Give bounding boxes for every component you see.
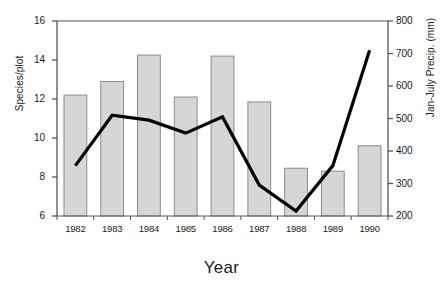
y-axis-right-tick-700: 700 bbox=[396, 49, 426, 59]
bar bbox=[174, 97, 197, 216]
y-axis-right-tick-300: 300 bbox=[396, 179, 426, 189]
y-axis-right-tick-200: 200 bbox=[396, 211, 426, 221]
y-axis-right-tick-800: 800 bbox=[396, 16, 426, 26]
x-axis-tick-1989: 1989 bbox=[313, 224, 353, 234]
x-axis-tick-1982: 1982 bbox=[55, 224, 95, 234]
y-axis-left-tick-6: 6 bbox=[19, 211, 45, 221]
y-axis-right-tick-500: 500 bbox=[396, 114, 426, 124]
chart-figure: Species/plot Jan-July Precip. (mm) Year … bbox=[0, 0, 443, 286]
bar bbox=[358, 146, 381, 216]
y-axis-right-title: Jan-July Precip. (mm) bbox=[425, 0, 436, 138]
y-axis-left-tick-12: 12 bbox=[19, 94, 45, 104]
bar bbox=[101, 81, 124, 216]
y-axis-left-tick-8: 8 bbox=[19, 172, 45, 182]
y-axis-left-tick-10: 10 bbox=[19, 133, 45, 143]
x-axis-tick-1990: 1990 bbox=[350, 224, 390, 234]
x-axis-tick-1987: 1987 bbox=[239, 224, 279, 234]
bar bbox=[138, 55, 161, 216]
y-axis-left-tick-16: 16 bbox=[19, 16, 45, 26]
x-axis-title: Year bbox=[0, 258, 443, 278]
bar bbox=[211, 56, 234, 216]
chart-plot-area bbox=[0, 0, 443, 286]
x-axis-tick-1983: 1983 bbox=[92, 224, 132, 234]
x-axis-tick-1984: 1984 bbox=[129, 224, 169, 234]
bar bbox=[248, 102, 271, 216]
y-axis-left-title: Species/plot bbox=[14, 29, 25, 139]
y-axis-right-tick-600: 600 bbox=[396, 81, 426, 91]
x-axis-tick-1988: 1988 bbox=[276, 224, 316, 234]
y-axis-left-tick-14: 14 bbox=[19, 55, 45, 65]
x-axis-tick-1986: 1986 bbox=[203, 224, 243, 234]
y-axis-right-tick-400: 400 bbox=[396, 146, 426, 156]
x-axis-tick-1985: 1985 bbox=[166, 224, 206, 234]
